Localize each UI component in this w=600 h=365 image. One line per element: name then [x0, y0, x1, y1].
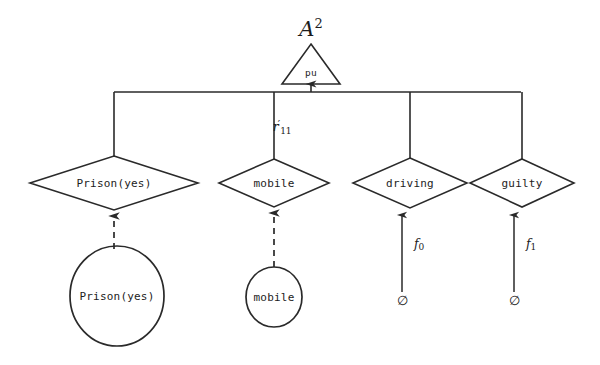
diagram-canvas: A2 pu r′11 Prison(yes) mobile driving gu…	[0, 0, 600, 365]
node-triangle-pu-label: pu	[305, 67, 317, 78]
node-diamond-mobile-label: mobile	[254, 177, 295, 190]
edge-label-subscript: 11	[280, 126, 291, 136]
edge-label-f1: f1	[526, 236, 536, 253]
leaf-empty-set-driving: ∅	[397, 293, 408, 308]
node-triangle-pu	[282, 44, 340, 84]
node-diamond-driving-label: driving	[386, 177, 434, 190]
title-exponent: 2	[314, 16, 322, 31]
node-diamond-prison-yes-label: Prison(yes)	[76, 177, 151, 190]
edge-label-f1-subscript: 1	[531, 242, 536, 252]
edge-label-f0-subscript: 0	[419, 242, 424, 252]
page-title: A2	[299, 16, 322, 41]
node-diamond-guilty-label: guilty	[502, 177, 543, 190]
node-circle-mobile-label: mobile	[254, 291, 295, 304]
title-base: A	[299, 17, 314, 41]
edge-label-f0: f0	[414, 236, 424, 253]
edge-label-r11: r′11	[273, 118, 291, 135]
leaf-empty-set-guilty: ∅	[509, 293, 520, 308]
node-circle-prison-yes-label: Prison(yes)	[79, 290, 154, 303]
